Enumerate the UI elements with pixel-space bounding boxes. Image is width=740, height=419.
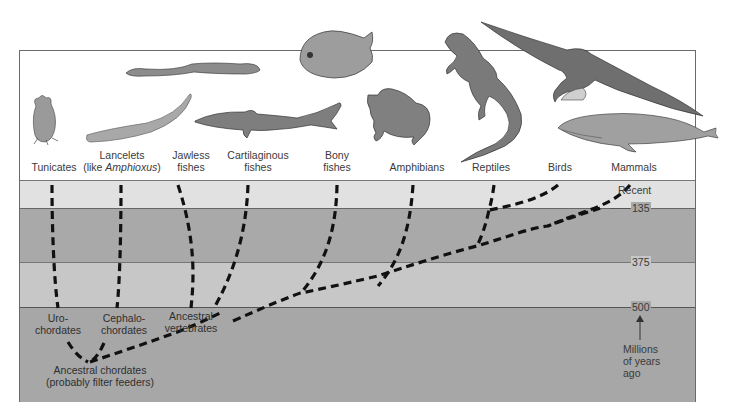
arrow-up-icon bbox=[636, 315, 644, 322]
phylogeny-diagram: Tunicates Lancelets (like Amphioxus) Jaw… bbox=[0, 0, 740, 419]
time-unit-label: Millions of years ago bbox=[623, 343, 660, 379]
